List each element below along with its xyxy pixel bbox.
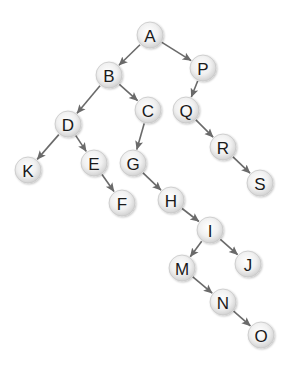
tree-node-i: I [197, 217, 223, 243]
edge-h-i [182, 209, 199, 222]
node-label: N [217, 294, 229, 313]
edge-r-s [233, 157, 250, 173]
node-label: O [254, 327, 267, 346]
tree-node-g: G [120, 150, 146, 176]
node-label: M [175, 260, 189, 279]
edge-i-j [220, 239, 237, 254]
node-label: H [165, 192, 177, 211]
node-label: F [117, 195, 127, 214]
node-label: A [144, 27, 156, 46]
tree-node-c: C [135, 97, 161, 123]
edges-layer [37, 42, 250, 325]
edge-b-c [119, 84, 137, 100]
tree-node-k: K [15, 157, 41, 183]
tree-node-e: E [81, 150, 107, 176]
edge-d-k [37, 135, 59, 160]
edge-e-f [102, 175, 114, 192]
tree-node-r: R [210, 134, 236, 160]
edge-c-g [137, 124, 144, 150]
tree-node-b: B [96, 62, 122, 88]
edge-d-e [76, 136, 86, 152]
node-label: J [244, 256, 253, 275]
node-label: B [103, 67, 114, 86]
edge-m-n [193, 277, 212, 293]
edge-a-p [162, 42, 191, 60]
tree-node-d: D [55, 111, 81, 137]
edge-n-o [234, 311, 251, 326]
edge-b-d [77, 86, 100, 114]
tree-node-m: M [169, 255, 195, 281]
edge-i-m [190, 241, 201, 256]
edge-q-r [196, 120, 213, 137]
node-label: K [22, 162, 34, 181]
tree-node-a: A [137, 22, 163, 48]
tree-node-f: F [109, 190, 135, 216]
edge-a-b [119, 45, 140, 65]
node-label: S [254, 175, 265, 194]
tree-node-j: J [235, 251, 261, 277]
node-label: E [88, 155, 99, 174]
nodes-layer: ABPCDQKEGRFHSIMJNO [15, 22, 274, 348]
edge-p-q [191, 81, 197, 97]
node-label: P [197, 60, 208, 79]
tree-node-o: O [248, 322, 274, 348]
tree-node-p: P [190, 55, 216, 81]
tree-node-n: N [210, 289, 236, 315]
node-label: R [217, 139, 229, 158]
node-label: Q [179, 102, 192, 121]
node-label: C [142, 102, 154, 121]
edge-g-h [143, 173, 161, 190]
node-label: I [208, 222, 213, 241]
tree-node-h: H [158, 187, 184, 213]
node-label: D [62, 116, 74, 135]
node-label: G [126, 155, 139, 174]
tree-node-s: S [247, 170, 273, 196]
tree-diagram: ABPCDQKEGRFHSIMJNO [0, 0, 290, 366]
tree-node-q: Q [173, 97, 199, 123]
